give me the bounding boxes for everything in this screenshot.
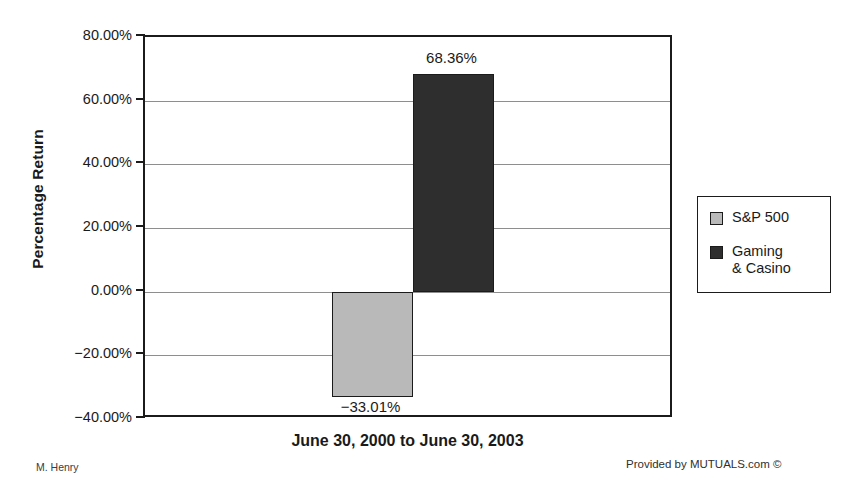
y-axis-tick-label: 40.00% [36,155,132,170]
x-axis-title: June 30, 2000 to June 30, 2003 [143,432,672,450]
gridline [145,101,670,102]
bar-value-label-sp500: −33.01% [341,399,401,414]
legend-label-gaming-casino: Gaming & Casino [732,243,791,278]
chart-legend: S&P 500 Gaming & Casino [697,196,831,293]
legend-swatch-icon-sp500 [710,212,723,225]
legend-swatch-icon-gaming-casino [710,246,723,259]
bar-chart-figure: Percentage Return 80.00%60.00%40.00%20.0… [0,0,845,498]
y-axis-tick-label: 0.00% [36,282,132,297]
bar-value-label-gaming-casino: 68.36% [426,50,477,65]
bar-sp500 [332,292,413,397]
legend-label-sp500: S&P 500 [732,209,789,227]
legend-entry-gaming-casino: Gaming & Casino [710,243,820,278]
y-axis-tick-label: −20.00% [36,346,132,361]
y-axis-tick-label: 60.00% [36,91,132,106]
credit-author: M. Henry [36,461,79,473]
y-axis-tick-label: 80.00% [36,28,132,43]
plot-inner [145,37,670,415]
legend-entry-sp500: S&P 500 [710,209,820,227]
gridline [145,164,670,165]
y-axis-tick-label: −40.00% [36,410,132,425]
y-axis-tick-label: 20.00% [36,219,132,234]
bar-gaming-casino [413,74,494,292]
credit-provider: Provided by MUTUALS.com © [626,458,781,470]
gridline [145,228,670,229]
y-axis-title: Percentage Return [29,89,47,309]
plot-area [143,35,672,417]
